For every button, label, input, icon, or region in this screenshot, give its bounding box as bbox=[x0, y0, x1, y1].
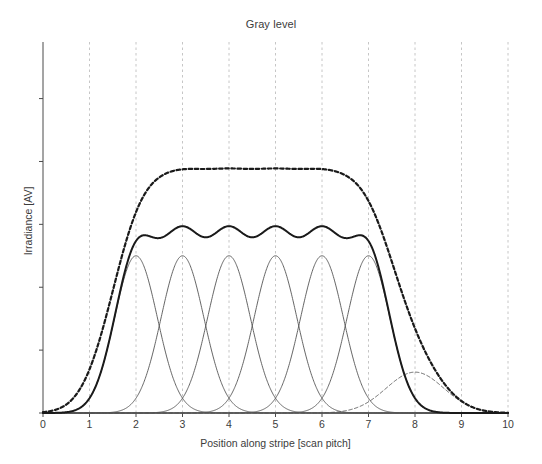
x-tick-label-7: 7 bbox=[357, 418, 381, 430]
gridlines-group bbox=[90, 42, 509, 413]
x-tick-label-0: 0 bbox=[31, 418, 55, 430]
x-tick-label-9: 9 bbox=[450, 418, 474, 430]
x-tick-label-8: 8 bbox=[403, 418, 427, 430]
x-tick-label-1: 1 bbox=[78, 418, 102, 430]
x-tick-label-10: 10 bbox=[496, 418, 520, 430]
x-tick-label-3: 3 bbox=[171, 418, 195, 430]
x-tick-label-4: 4 bbox=[217, 418, 241, 430]
plot-canvas bbox=[0, 0, 542, 464]
x-tick-label-2: 2 bbox=[124, 418, 148, 430]
x-tick-label-6: 6 bbox=[310, 418, 334, 430]
y-axis-ticks-group bbox=[39, 99, 43, 413]
x-axis-tick-labels: 012345678910 bbox=[0, 418, 542, 434]
chart-figure: Gray level 012345678910 Position along s… bbox=[0, 0, 542, 464]
x-axis-label: Position along stripe [scan pitch] bbox=[43, 437, 508, 449]
x-tick-label-5: 5 bbox=[264, 418, 288, 430]
x-axis-ticks-group bbox=[43, 413, 508, 417]
y-axis-label: Irradiance [AV] bbox=[22, 131, 34, 311]
